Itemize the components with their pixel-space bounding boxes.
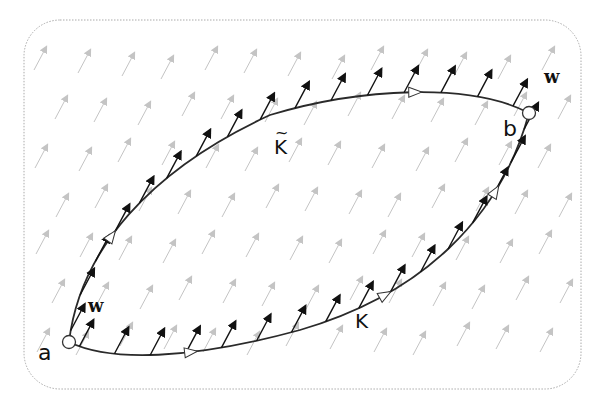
field-arrow <box>374 329 386 352</box>
direction-arrow-marker <box>488 183 503 199</box>
field-arrow <box>349 191 361 214</box>
field-arrow <box>330 326 342 349</box>
field-arrow <box>178 191 190 214</box>
point-a-label: a <box>38 342 51 364</box>
field-arrow <box>80 234 92 257</box>
diagram-canvas: a b ~ K K w w <box>0 0 599 416</box>
field-arrow <box>332 56 344 79</box>
w-vector-arrow <box>80 268 94 294</box>
w-vector-arrow <box>114 327 128 353</box>
w-vector-arrow <box>367 69 381 95</box>
field-arrow <box>94 99 106 122</box>
point-b-marker <box>523 107 536 120</box>
field-arrow <box>205 47 217 70</box>
field-arrow <box>328 142 340 165</box>
field-arrow <box>433 283 445 306</box>
field-arrow <box>539 231 551 254</box>
field-arrow <box>373 231 385 254</box>
field-arrow <box>262 283 274 306</box>
field-arrow <box>244 50 256 73</box>
field-arrow <box>288 53 300 76</box>
w-vector-arrow <box>167 152 181 178</box>
field-arrow <box>119 237 131 260</box>
field-arrow <box>560 280 572 303</box>
w-vector-arrow <box>441 66 455 92</box>
field-arrow <box>140 286 152 309</box>
field-arrow <box>78 50 90 73</box>
field-arrow <box>392 96 404 119</box>
field-arrow <box>500 240 512 263</box>
field-arrow <box>476 188 488 211</box>
point-b-label: b <box>503 118 517 140</box>
field-arrow <box>246 234 258 257</box>
field-arrow <box>431 99 443 122</box>
field-arrow <box>350 277 362 300</box>
field-arrow <box>52 280 64 303</box>
point-a-marker <box>63 336 76 349</box>
field-arrow <box>538 145 550 168</box>
field-arrow <box>388 194 400 217</box>
field-arrow <box>472 286 484 309</box>
field-arrow <box>266 185 278 208</box>
field-arrow <box>35 145 47 168</box>
field-arrow <box>122 53 134 76</box>
field-arrow <box>413 332 425 355</box>
field-arrow <box>179 277 191 300</box>
curve-k-tilde <box>69 92 529 342</box>
field-arrow <box>202 231 214 254</box>
w-vector-arrow <box>257 314 271 340</box>
field-arrow <box>498 56 510 79</box>
field-arrow <box>36 231 48 254</box>
field-arrow <box>432 185 444 208</box>
field-arrow <box>286 323 298 346</box>
direction-markers <box>104 87 503 358</box>
field-arrow <box>245 148 257 171</box>
field-arrow <box>496 326 508 349</box>
field-arrow <box>412 234 424 257</box>
direction-arrow-marker <box>184 346 198 357</box>
field-arrow <box>329 240 341 263</box>
field-arrow <box>76 332 88 355</box>
field-arrow <box>222 194 234 217</box>
field-arrow <box>516 277 528 300</box>
field-arrow <box>55 96 67 119</box>
field-arrow <box>95 185 107 208</box>
w-vector-arrow <box>295 82 309 108</box>
field-arrow <box>558 96 570 119</box>
vector-w-label-a: w <box>88 297 104 315</box>
direction-arrow-marker <box>409 87 422 97</box>
field-arrow <box>454 53 466 76</box>
w-vector-arrow <box>115 204 129 230</box>
field-arrow <box>289 139 301 162</box>
field-arrow <box>118 139 130 162</box>
field-arrow <box>290 237 302 260</box>
field-arrow <box>120 323 132 346</box>
field-arrow <box>163 240 175 263</box>
vector-w-label-b: w <box>544 68 560 86</box>
w-vector-arrow <box>448 223 462 249</box>
field-arrow <box>182 93 194 116</box>
w-vector-arrow <box>140 176 154 202</box>
field-arrow <box>371 47 383 70</box>
w-vector-arrow <box>150 329 164 355</box>
field-arrow <box>306 286 318 309</box>
field-arrow <box>247 332 259 355</box>
w-vector-arrow <box>473 196 487 222</box>
w-vector-arrow <box>79 320 93 346</box>
curve-k-tilde-label: ~ K <box>274 137 287 157</box>
diagram-svg <box>0 0 599 416</box>
field-arrow <box>416 148 428 171</box>
curve-vectors <box>71 66 539 355</box>
field-arrow <box>515 191 527 214</box>
region-border <box>24 20 581 389</box>
field-arrow <box>162 142 174 165</box>
tilde-mark: ~ <box>275 125 288 141</box>
field-arrow <box>34 47 46 70</box>
field-arrow <box>372 145 384 168</box>
field-arrow <box>475 102 487 125</box>
field-arrow <box>164 326 176 349</box>
field-arrow <box>559 194 571 217</box>
field-arrow <box>79 148 91 171</box>
w-vector-arrow <box>477 70 491 96</box>
field-arrow <box>455 139 467 162</box>
